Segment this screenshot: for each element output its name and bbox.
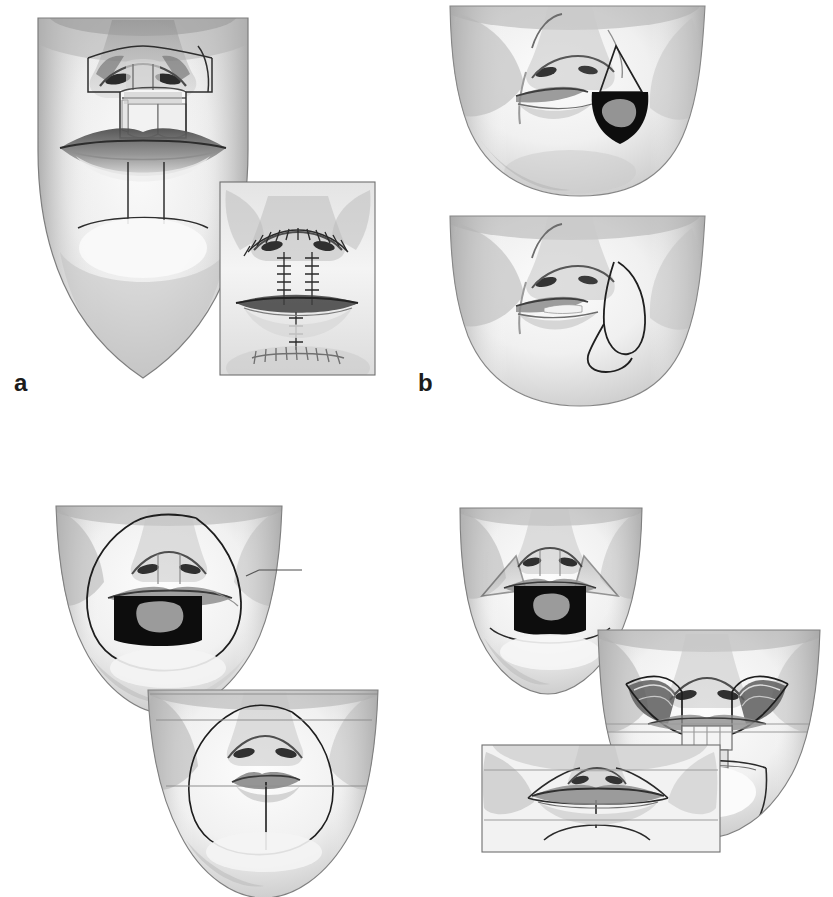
panel-letter-a: a bbox=[14, 371, 27, 395]
panel-b-artwork bbox=[420, 0, 833, 420]
panel-letter-b: b bbox=[418, 371, 433, 395]
panel-a-artwork bbox=[0, 0, 420, 420]
panel-c-lesion bbox=[136, 601, 183, 632]
panel-c-upper-face bbox=[48, 482, 288, 720]
panel-c: Vascular bundle c bbox=[0, 480, 440, 897]
panel-d-artwork bbox=[420, 480, 833, 897]
panel-c-artwork bbox=[0, 480, 440, 897]
panel-a: a bbox=[0, 0, 420, 420]
panel-b-upper-face bbox=[440, 0, 708, 200]
panel-d: d bbox=[420, 480, 833, 897]
panel-c-lower-face bbox=[142, 666, 384, 897]
figure-root: a bbox=[0, 0, 833, 897]
panel-d-lesion bbox=[533, 594, 570, 621]
panel-a-inset bbox=[220, 182, 375, 390]
panel-b-lower-face bbox=[440, 188, 708, 410]
panel-b: b bbox=[420, 0, 833, 420]
